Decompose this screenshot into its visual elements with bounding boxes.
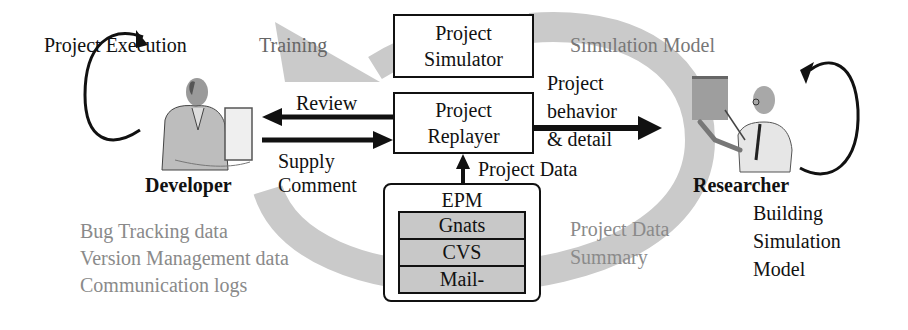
project-replayer-label-1: Project [395, 97, 532, 123]
project-data-label: Project Data [478, 158, 577, 180]
building-label-3: Model [753, 258, 805, 280]
epm-row-mail: Mail- [398, 265, 526, 294]
building-label-1: Building [753, 202, 823, 224]
researcher-label: Researcher [693, 174, 789, 196]
developer-icon [162, 78, 252, 170]
epm-box: EPM Gnats CVS Mail- [383, 183, 541, 302]
project-data-summary-label-1: Project Data [570, 218, 669, 240]
project-data-summary-label-2: Summary [570, 246, 648, 268]
simulation-model-label: Simulation Model [570, 34, 715, 56]
epm-title: EPM [385, 189, 539, 211]
supply-label: Supply [278, 150, 335, 172]
project-replayer-box: Project Replayer [393, 92, 534, 154]
review-label: Review [296, 92, 357, 114]
project-simulator-label-2: Simulator [395, 46, 532, 72]
project-data-arrow [456, 154, 470, 183]
training-label: Training [259, 34, 327, 56]
supply-comment-arrow [262, 131, 393, 149]
project-behavior-label-2: behavior [547, 100, 617, 122]
communication-logs-label: Communication logs [80, 274, 247, 296]
project-simulator-label-1: Project [395, 20, 532, 46]
bug-tracking-data-label: Bug Tracking data [80, 220, 228, 242]
project-behavior-label-1: Project [547, 72, 604, 94]
researcher-loop-icon [800, 62, 858, 174]
developer-label: Developer [145, 174, 232, 196]
project-simulator-box: Project Simulator [393, 14, 534, 78]
epm-row-cvs: CVS [398, 238, 526, 267]
building-label-2: Simulation [753, 230, 841, 252]
project-behavior-label-3: & detail [547, 128, 612, 150]
comment-label: Comment [278, 174, 357, 196]
project-execution-label: Project Execution [44, 34, 187, 56]
epm-row-gnats: Gnats [398, 211, 526, 240]
project-replayer-label-2: Replayer [395, 123, 532, 149]
version-management-data-label: Version Management data [80, 247, 289, 269]
